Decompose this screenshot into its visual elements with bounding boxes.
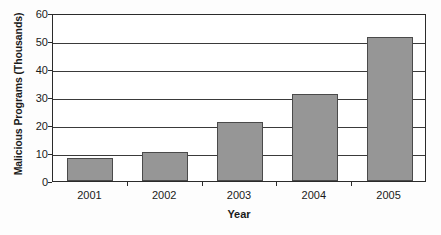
bar <box>67 158 113 181</box>
x-axis-tick-label: 2005 <box>376 189 400 201</box>
x-axis-tick-label: 2001 <box>77 189 101 201</box>
bar <box>292 94 338 181</box>
y-axis-tick-label: 20 <box>20 120 48 132</box>
y-axis-tick-label: 0 <box>20 176 48 188</box>
x-axis-tick-label: 2003 <box>227 189 251 201</box>
x-axis-tick-mark <box>351 182 352 186</box>
bar <box>217 122 263 181</box>
plot-area <box>52 14 426 182</box>
x-axis-tick-label: 2002 <box>152 189 176 201</box>
x-axis-tick-mark <box>202 182 203 186</box>
y-axis-tick-labels: 0102030405060 <box>20 0 48 235</box>
y-axis-tick-label: 50 <box>20 36 48 48</box>
y-axis-tick-label: 30 <box>20 92 48 104</box>
x-axis-title: Year <box>52 208 426 220</box>
x-axis-tick-mark <box>127 182 128 186</box>
chart-screenshot: Malicious Programs (Thousands) 010203040… <box>0 0 441 235</box>
y-axis-tick-label: 40 <box>20 64 48 76</box>
x-axis-tick-mark <box>276 182 277 186</box>
x-axis-tick-marks <box>52 182 426 187</box>
y-axis-tick-label: 10 <box>20 148 48 160</box>
bar <box>367 37 413 181</box>
bar <box>142 152 188 181</box>
x-axis-tick-label: 2004 <box>302 189 326 201</box>
y-axis-tick-label: 60 <box>20 8 48 20</box>
